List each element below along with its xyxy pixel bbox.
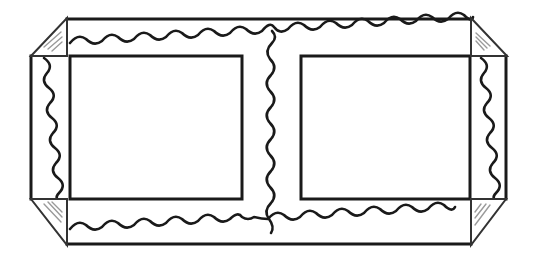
frame-diagram: [0, 0, 534, 262]
center-divider: [266, 31, 275, 233]
wave-left: [44, 58, 63, 202]
window-left: [70, 56, 242, 199]
wave-top: [70, 13, 473, 44]
wave-bottom: [70, 203, 455, 230]
corner-tr: [471, 18, 507, 56]
corner-bl: [31, 199, 67, 245]
window-right: [301, 56, 470, 199]
corner-tl: [31, 18, 67, 56]
corner-br: [471, 199, 506, 245]
wave-right: [481, 58, 500, 202]
